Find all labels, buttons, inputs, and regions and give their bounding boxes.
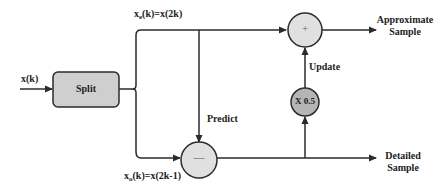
approximate-output-label: Approximate Sample [373,14,437,38]
approximate-line2: Sample [373,26,437,38]
subtract-symbol: — [181,151,217,163]
odd-branch-line [133,89,180,158]
detailed-output-label: Detailed Sample [378,150,428,174]
add-symbol: + [288,22,322,34]
odd-branch-label: xo(k)=x(2k-1) [124,170,181,185]
odd-label-suffix: (k)=x(2k-1) [133,170,181,181]
detailed-line2: Sample [378,162,428,174]
detailed-line1: Detailed [378,150,428,162]
update-label: Update [309,61,340,73]
even-branch-line [133,30,286,89]
split-label: Split [53,83,119,94]
scale-label: X 0.5 [291,96,319,106]
even-branch-label: xe(k)=x(2k) [134,8,182,23]
input-label: x(k) [21,73,38,85]
approximate-line1: Approximate [373,14,437,26]
even-label-suffix: (k)=x(2k) [142,8,182,19]
predict-label: Predict [207,113,238,125]
